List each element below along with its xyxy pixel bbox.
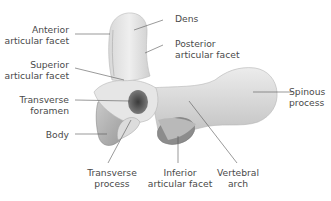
label-anterior-articular-facet: Anterior articular facet [5,24,70,46]
label-superior-articular-facet: Superior articular facet [5,59,70,81]
label-posterior-articular-facet: Posterior articular facet [175,38,240,60]
label-line: process [289,97,325,108]
label-line: Transverse [82,167,142,178]
label-body: Body [46,129,69,140]
label-line: arch [210,178,266,189]
label-line: articular facet [143,178,217,189]
label-line: Inferior [143,167,217,178]
label-transverse-foramen: Transverse foramen [19,94,69,116]
label-line: Body [46,129,69,140]
label-line: Dens [175,13,198,24]
label-dens: Dens [175,13,198,24]
label-line: Anterior [5,24,70,35]
label-line: process [82,178,142,189]
label-line: Superior [5,59,70,70]
label-inferior-articular-facet: Inferior articular facet [143,167,217,189]
label-vertebral-arch: Vertebral arch [210,167,266,189]
label-line: foramen [19,105,69,116]
label-line: articular facet [5,35,70,46]
label-line: articular facet [5,70,70,81]
dens-shape [109,13,150,81]
label-line: Spinous [289,86,325,97]
label-spinous-process: Spinous process [289,86,325,108]
label-line: Vertebral [210,167,266,178]
label-line: articular facet [175,49,240,60]
transverse-foramen-shape [128,90,148,114]
label-transverse-process: Transverse process [82,167,142,189]
label-line: Transverse [19,94,69,105]
label-line: Posterior [175,38,240,49]
leader-posterior-facet [145,45,163,53]
